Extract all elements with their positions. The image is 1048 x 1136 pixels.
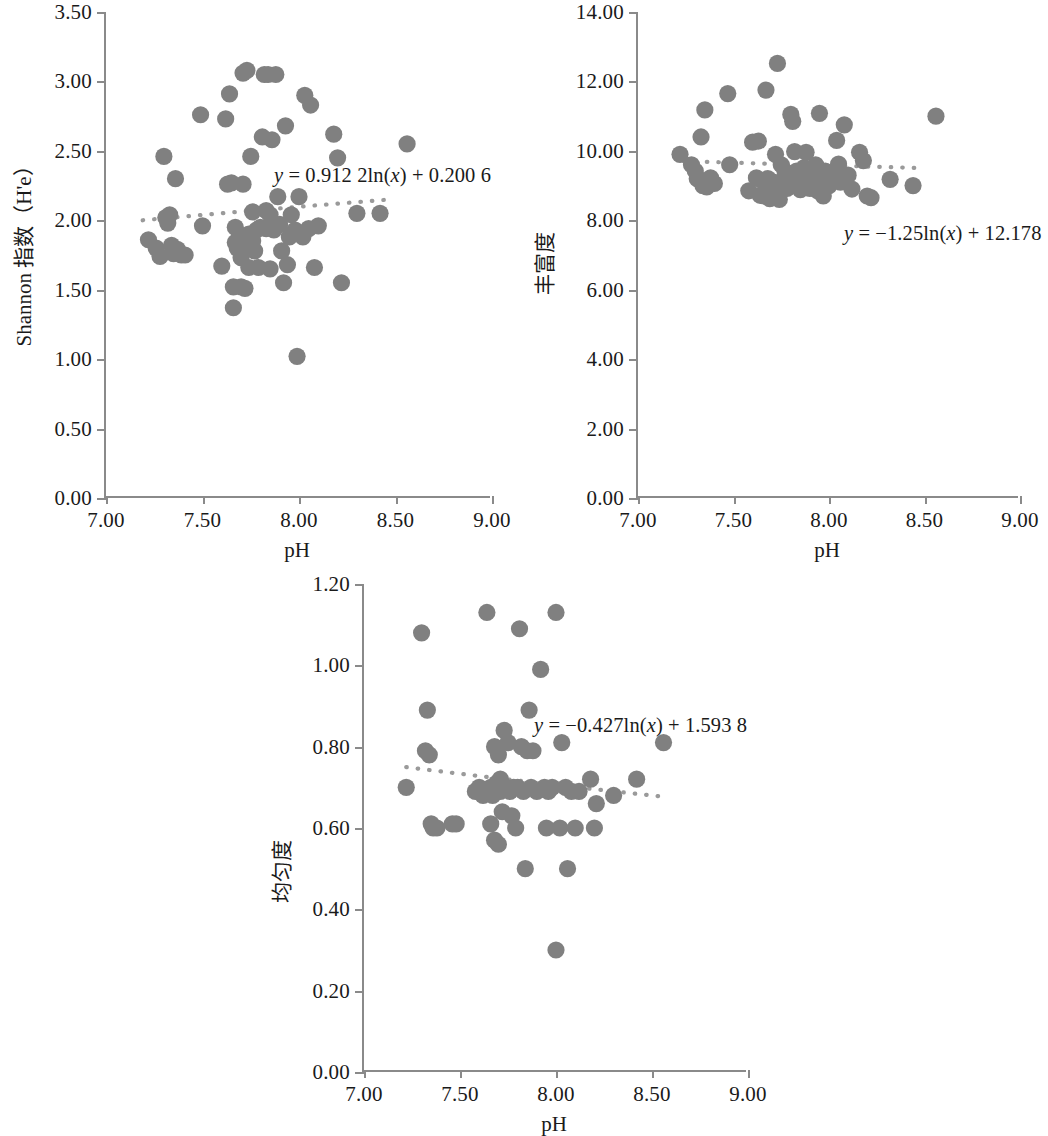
plot-area-richness: 0.002.004.006.008.0010.0012.0014.00 7.00… [636, 12, 1018, 498]
plot-area-shannon: 0.000.501.001.502.002.503.003.50 7.007.5… [104, 12, 490, 498]
scatter-point [692, 128, 709, 145]
scatter-point [706, 175, 723, 192]
scatter-point [413, 624, 430, 641]
scatter-point [750, 133, 767, 150]
y-axis-title-evenness: 均匀度 [265, 791, 295, 951]
x-tick-label: 7.00 [619, 508, 657, 533]
x-tick-mark [364, 1070, 366, 1078]
x-tick-mark [396, 496, 398, 504]
scatter-point [267, 66, 284, 83]
x-tick-label: 8.50 [377, 508, 415, 533]
x-tick-mark [1020, 496, 1022, 504]
y-tick-label: 1.20 [312, 572, 350, 597]
trendline-equation-evenness: y = −0.427ln(x) + 1.593 8 [534, 714, 747, 737]
y-tick-label: 3.00 [54, 69, 92, 94]
y-tick-label: 10.00 [576, 138, 624, 163]
scatter-point [288, 348, 305, 365]
scatter-point [904, 177, 921, 194]
y-tick-label: 1.00 [312, 653, 350, 678]
y-tick-label: 0.20 [312, 978, 350, 1003]
x-tick-label: 8.50 [633, 1082, 671, 1107]
scatter-point [225, 299, 242, 316]
scatter-point [302, 96, 319, 113]
trendline-equation-shannon: y = 0.912 2ln(x) + 0.200 6 [274, 164, 491, 187]
scatter-points-evenness [364, 584, 746, 1070]
scatter-point [333, 274, 350, 291]
scatter-point [524, 742, 541, 759]
x-tick-label: 7.50 [441, 1082, 479, 1107]
scatter-point [234, 176, 251, 193]
y-axis-title-richness: 丰富度 [528, 183, 558, 343]
x-tick-mark [299, 496, 301, 504]
x-tick-label: 8.00 [810, 508, 848, 533]
scatter-point [398, 779, 415, 796]
scatter-point [517, 860, 534, 877]
y-tick-label: 0.40 [312, 897, 350, 922]
x-tick-mark [492, 496, 494, 504]
scatter-point [421, 746, 438, 763]
scatter-point [325, 126, 342, 143]
y-tick-mark [97, 220, 106, 222]
scatter-point [238, 62, 255, 79]
y-tick-mark [355, 828, 364, 830]
scatter-point [192, 106, 209, 123]
x-axis-title-shannon: pH [104, 538, 490, 563]
y-tick-mark [629, 429, 638, 431]
y-tick-label: 2.50 [54, 138, 92, 163]
y-tick-mark [355, 991, 364, 993]
y-tick-mark [97, 151, 106, 153]
y-tick-label: 0.80 [312, 734, 350, 759]
scatter-point [811, 105, 828, 122]
scatter-point [348, 205, 365, 222]
y-tick-label: 3.50 [54, 0, 92, 25]
scatter-point [696, 101, 713, 118]
plot-area-evenness: 0.000.200.400.600.801.001.20 7.007.508.0… [362, 584, 746, 1072]
chart-panel-evenness: 0.000.200.400.600.801.001.20 7.007.508.0… [262, 568, 786, 1136]
y-tick-mark [629, 81, 638, 83]
scatter-point [194, 217, 211, 234]
scatter-points-shannon [106, 12, 490, 496]
scatter-point [582, 771, 599, 788]
y-tick-mark [629, 151, 638, 153]
scatter-point [306, 259, 323, 276]
scatter-point [511, 620, 528, 637]
x-tick-mark [652, 1070, 654, 1078]
x-tick-mark [203, 496, 205, 504]
y-tick-mark [355, 665, 364, 667]
scatter-point [167, 170, 184, 187]
chart-panel-shannon: 0.000.501.001.502.002.503.003.50 7.007.5… [0, 0, 524, 568]
scatter-point [551, 819, 568, 836]
y-tick-mark [629, 220, 638, 222]
scatter-point [843, 180, 860, 197]
x-tick-label: 8.00 [280, 508, 318, 533]
y-tick-mark [355, 909, 364, 911]
y-tick-label: 8.00 [586, 208, 624, 233]
scatter-point [283, 206, 300, 223]
y-axis-title-shannon: Shannon 指数（H'e） [7, 121, 37, 381]
x-tick-mark [556, 1070, 558, 1078]
scatter-point [927, 108, 944, 125]
scatter-point [855, 152, 872, 169]
scatter-point [277, 117, 294, 134]
y-tick-mark [97, 81, 106, 83]
y-tick-label: 0.60 [312, 816, 350, 841]
x-tick-label: 9.00 [473, 508, 511, 533]
y-tick-label: 0.00 [312, 1060, 350, 1085]
scatter-point [246, 242, 263, 259]
x-tick-mark [638, 496, 640, 504]
x-tick-mark [106, 496, 108, 504]
scatter-point [882, 171, 899, 188]
x-tick-label: 9.00 [729, 1082, 767, 1107]
scatter-point [478, 604, 495, 621]
scatter-point [398, 135, 415, 152]
scatter-point [419, 701, 436, 718]
scatter-point [769, 55, 786, 72]
y-tick-label: 0.00 [586, 486, 624, 511]
y-tick-label: 4.00 [586, 347, 624, 372]
scatter-point [217, 110, 234, 127]
y-tick-label: 14.00 [576, 0, 624, 25]
y-tick-mark [355, 1072, 364, 1074]
y-tick-mark [355, 747, 364, 749]
x-axis-title-richness: pH [636, 538, 1018, 563]
scatter-point [862, 189, 879, 206]
